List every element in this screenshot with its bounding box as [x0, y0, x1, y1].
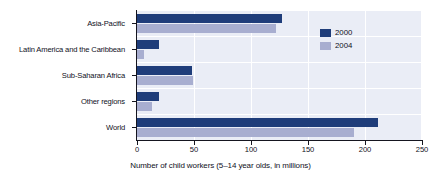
bar-sub-saharan-africa-2000	[137, 66, 192, 75]
x-axis-tick-200	[365, 141, 366, 145]
legend-label-2004: 2004	[335, 41, 352, 50]
y-axis-tick-asia-pacific	[132, 23, 136, 24]
x-axis-tick-150	[308, 141, 309, 145]
legend-label-2000: 2000	[335, 28, 352, 37]
bar-asia-pacific-2004	[137, 24, 276, 33]
bar-world-2000	[137, 118, 378, 127]
category-label-asia-pacific: Asia-Pacific	[0, 19, 125, 28]
x-axis-tick-0	[137, 141, 138, 145]
y-axis-tick-sub-saharan-africa	[132, 75, 136, 76]
x-axis-label-100: 100	[245, 145, 258, 154]
bar-latin-america-2004	[137, 50, 144, 59]
category-label-latin-america: Latin America and the Caribbean	[0, 45, 125, 54]
legend-item-2000[interactable]: 2000	[320, 27, 352, 38]
y-axis-tick-other-regions	[132, 101, 136, 102]
gridline-group-divider-3	[137, 88, 422, 89]
bar-other-regions-2004	[137, 102, 152, 111]
child-workers-bar-chart: Asia-Pacific Latin America and the Carib…	[0, 0, 441, 180]
x-axis-label-250: 250	[416, 145, 429, 154]
x-axis-tick-50	[194, 141, 195, 145]
x-axis-label-200: 200	[359, 145, 372, 154]
bar-latin-america-2000	[137, 40, 159, 49]
gridline-group-divider-4	[137, 114, 422, 115]
bar-world-2004	[137, 128, 354, 137]
category-axis-labels: Asia-Pacific Latin America and the Carib…	[0, 11, 131, 140]
y-axis-tick-world	[132, 127, 136, 128]
gridline-group-divider-1	[137, 36, 422, 37]
plot-area	[137, 11, 422, 140]
gridline-250	[421, 11, 422, 140]
category-label-other-regions: Other regions	[0, 97, 125, 106]
legend-swatch-icon-2000	[320, 29, 331, 37]
bar-asia-pacific-2000	[137, 14, 282, 23]
category-label-world: World	[0, 123, 125, 132]
x-axis-line	[136, 140, 423, 141]
category-label-sub-saharan-africa: Sub-Saharan Africa	[0, 71, 125, 80]
legend: 2000 2004	[320, 27, 352, 53]
x-axis-label-150: 150	[302, 145, 315, 154]
legend-item-2004[interactable]: 2004	[320, 40, 352, 51]
y-axis-tick-latin-america	[132, 49, 136, 50]
x-axis-tick-250	[422, 141, 423, 145]
x-axis-tick-100	[251, 141, 252, 145]
x-axis-title: Number of child workers (5–14 year olds,…	[0, 161, 441, 171]
bar-sub-saharan-africa-2004	[137, 76, 193, 85]
x-axis-label-0: 0	[135, 145, 139, 154]
x-axis-label-50: 50	[190, 145, 198, 154]
bar-other-regions-2000	[137, 92, 159, 101]
y-axis-line	[136, 10, 137, 141]
legend-swatch-icon-2004	[320, 42, 331, 50]
gridline-group-divider-2	[137, 62, 422, 63]
